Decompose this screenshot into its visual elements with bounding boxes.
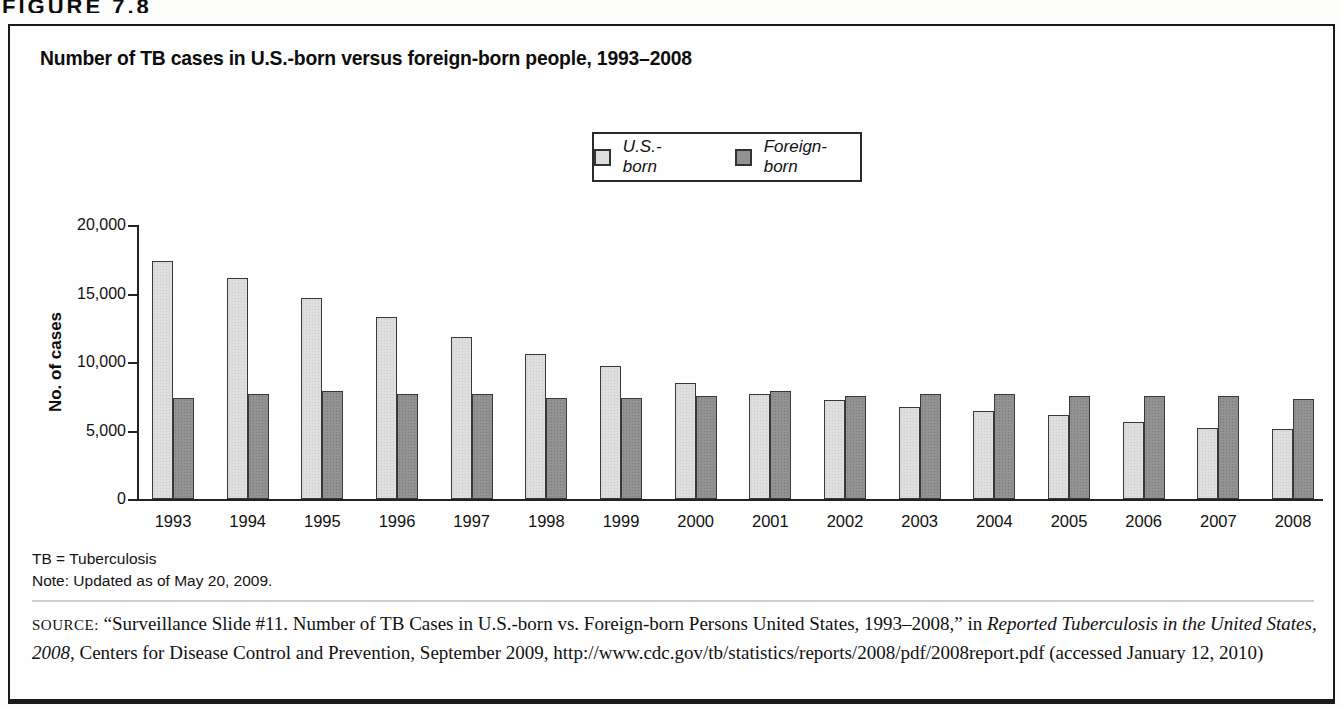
bar-foreign-born-2006 (1144, 396, 1165, 499)
bar-us-born-1993 (152, 261, 173, 499)
chart-title: Number of TB cases in U.S.-born versus f… (40, 46, 692, 70)
x-tick-label-2005: 2005 (1037, 512, 1101, 531)
figure-number-text: FIGURE 7.8 (2, 0, 152, 13)
source-label: SOURCE: (32, 617, 99, 633)
bar-foreign-born-1997 (472, 394, 493, 499)
note-divider (32, 600, 1314, 602)
x-tick-label-2003: 2003 (888, 512, 952, 531)
bar-us-born-2005 (1048, 415, 1069, 499)
y-tick-label-10000: 10,000 (42, 353, 126, 371)
y-tick-10000 (128, 362, 137, 364)
bar-foreign-born-2004 (994, 394, 1015, 499)
x-tick-label-2004: 2004 (962, 512, 1026, 531)
x-tick-label-1995: 1995 (290, 512, 354, 531)
y-tick-20000 (128, 225, 137, 227)
figure-box: Number of TB cases in U.S.-born versus f… (8, 24, 1335, 704)
legend-entry-us-born: U.S.-born (594, 137, 695, 177)
bar-us-born-1997 (451, 337, 472, 499)
bar-foreign-born-1994 (248, 394, 269, 499)
bar-foreign-born-2008 (1293, 399, 1314, 499)
figure-number-label: FIGURE 7.8 (2, 0, 322, 13)
bar-foreign-born-2000 (696, 396, 717, 499)
y-tick-5000 (128, 431, 137, 433)
page: { "figure_label": "FIGURE 7.8", "chart_d… (0, 0, 1342, 707)
bar-foreign-born-2003 (920, 394, 941, 499)
x-axis-line (137, 499, 1323, 501)
legend-entry-foreign-born: Foreign-born (735, 137, 860, 177)
source-citation: SOURCE: “Surveillance Slide #11. Number … (32, 610, 1324, 666)
bar-foreign-born-1993 (173, 398, 194, 499)
x-tick-label-2001: 2001 (738, 512, 802, 531)
bar-us-born-2006 (1123, 422, 1144, 499)
bar-us-born-1996 (376, 317, 397, 499)
bar-us-born-1999 (600, 366, 621, 499)
bar-us-born-1994 (227, 278, 248, 499)
x-tick-label-2006: 2006 (1112, 512, 1176, 531)
y-tick-label-5000: 5,000 (42, 422, 126, 440)
x-tick-label-2000: 2000 (664, 512, 728, 531)
x-tick-label-2007: 2007 (1186, 512, 1250, 531)
x-tick-label-1999: 1999 (589, 512, 653, 531)
abbreviation-note: TB = Tuberculosis (32, 550, 156, 568)
bar-foreign-born-2001 (770, 391, 791, 499)
x-tick-label-1996: 1996 (365, 512, 429, 531)
bar-us-born-2008 (1272, 429, 1293, 499)
x-tick-label-1993: 1993 (141, 512, 205, 531)
legend: U.S.-born Foreign-born (592, 132, 862, 182)
bar-foreign-born-1995 (322, 391, 343, 499)
bar-foreign-born-2007 (1218, 396, 1239, 499)
x-tick-label-1997: 1997 (440, 512, 504, 531)
y-tick-label-0: 0 (42, 490, 126, 508)
x-tick-label-1998: 1998 (514, 512, 578, 531)
legend-swatch-us-born (594, 149, 611, 166)
bar-us-born-2000 (675, 383, 696, 499)
bar-foreign-born-1998 (546, 398, 567, 499)
update-note: Note: Updated as of May 20, 2009. (32, 572, 272, 590)
y-tick-label-20000: 20,000 (42, 216, 126, 234)
bar-foreign-born-1999 (621, 398, 642, 499)
bar-us-born-2007 (1197, 428, 1218, 499)
bar-us-born-1995 (301, 298, 322, 499)
bar-foreign-born-1996 (397, 394, 418, 499)
y-tick-label-15000: 15,000 (42, 285, 126, 303)
legend-label-foreign-born: Foreign-born (764, 137, 860, 177)
legend-label-us-born: U.S.-born (623, 137, 695, 177)
bar-us-born-2002 (824, 400, 845, 499)
bar-us-born-2004 (973, 411, 994, 499)
source-text-2: , Centers for Disease Control and Preven… (70, 642, 1263, 663)
x-tick-label-2002: 2002 (813, 512, 877, 531)
bar-us-born-1998 (525, 354, 546, 499)
bar-foreign-born-2005 (1069, 396, 1090, 499)
x-tick-label-1994: 1994 (216, 512, 280, 531)
x-tick-label-2008: 2008 (1261, 512, 1325, 531)
y-tick-15000 (128, 294, 137, 296)
y-axis-line (137, 225, 139, 501)
source-text-1: “Surveillance Slide #11. Number of TB Ca… (99, 613, 987, 634)
bar-us-born-2001 (749, 394, 770, 499)
bar-foreign-born-2002 (845, 396, 866, 499)
legend-swatch-foreign-born (735, 149, 752, 166)
bar-us-born-2003 (899, 407, 920, 499)
y-tick-0 (128, 499, 137, 501)
